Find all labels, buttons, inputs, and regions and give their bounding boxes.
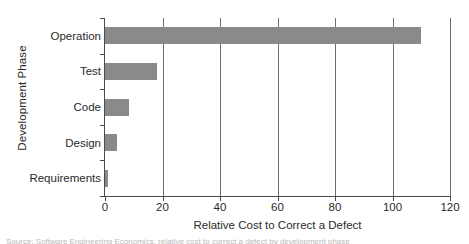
bar-test[interactable] xyxy=(105,63,157,80)
x-tick-label-40: 40 xyxy=(200,201,240,214)
plot-area xyxy=(105,18,450,196)
caption-sliver: Source: Software Engineering Economics, … xyxy=(6,237,463,244)
bar-code[interactable] xyxy=(105,99,129,116)
x-tick-label-60: 60 xyxy=(258,201,298,214)
gridline-x-80 xyxy=(335,18,336,196)
y-tick-mark-2 xyxy=(100,89,105,90)
gridline-x-120 xyxy=(450,18,451,196)
x-axis-tick-labels: 020406080100120 xyxy=(105,201,450,215)
y-tick-label-operation: Operation xyxy=(18,30,101,42)
bar-chart-figure: Development Phase OperationTestCodeDesig… xyxy=(0,0,469,244)
y-tick-mark-1 xyxy=(100,54,105,55)
x-axis-title: Relative Cost to Correct a Defect xyxy=(105,219,450,231)
x-tick-label-80: 80 xyxy=(315,201,355,214)
y-axis-tick-labels: OperationTestCodeDesignRequirements xyxy=(18,18,101,196)
y-tick-mark-0 xyxy=(100,18,105,19)
y-tick-label-design: Design xyxy=(18,137,101,149)
x-tick-label-120: 120 xyxy=(430,201,469,214)
y-tick-mark-3 xyxy=(100,125,105,126)
y-tick-mark-4 xyxy=(100,160,105,161)
bar-requirements[interactable] xyxy=(105,170,108,187)
gridline-x-60 xyxy=(278,18,279,196)
x-tick-label-20: 20 xyxy=(143,201,183,214)
y-tick-label-requirements: Requirements xyxy=(18,172,101,184)
y-tick-label-code: Code xyxy=(18,101,101,113)
y-tick-label-test: Test xyxy=(18,65,101,77)
gridline-x-40 xyxy=(220,18,221,196)
gridline-x-20 xyxy=(163,18,164,196)
bar-design[interactable] xyxy=(105,134,117,151)
x-tick-label-100: 100 xyxy=(373,201,413,214)
x-tick-label-0: 0 xyxy=(85,201,125,214)
y-tick-mark-5 xyxy=(100,196,105,197)
bar-operation[interactable] xyxy=(105,27,421,44)
gridline-x-100 xyxy=(393,18,394,196)
